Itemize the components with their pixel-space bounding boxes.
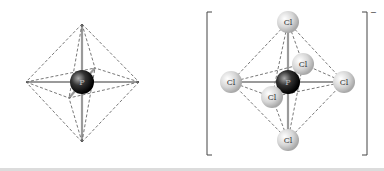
bottom-divider [0,168,384,171]
svg-text:Cl: Cl [227,78,236,87]
svg-text:Cl: Cl [284,18,293,27]
right-pcl6: Cl P Cl Cl Cl Cl Cl [220,11,355,151]
svg-text:P: P [79,78,85,87]
left-octahedron: P [26,24,139,142]
svg-text:Cl: Cl [299,60,308,69]
svg-text:Cl: Cl [268,93,277,102]
octahedral-diagram: P − Cl P Cl [0,0,384,171]
svg-text:Cl: Cl [284,136,293,145]
svg-text:Cl: Cl [340,78,349,87]
svg-text:P: P [285,78,291,87]
charge-label: − [370,8,377,17]
